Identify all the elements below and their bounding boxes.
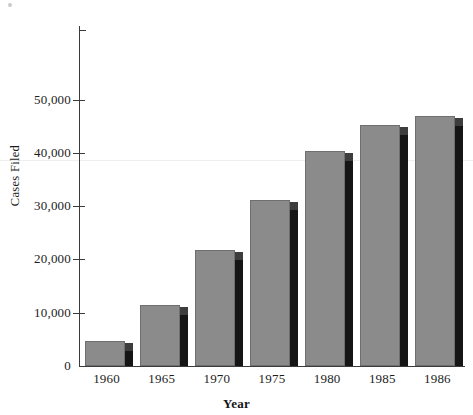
bar-shadow-bevel	[290, 202, 298, 210]
bar-shadow	[400, 133, 408, 366]
y-axis-line	[79, 26, 80, 367]
x-axis-title: Year	[0, 396, 473, 412]
bar-shadow	[345, 159, 353, 366]
bar-shadow	[180, 313, 188, 366]
bar-shadow	[290, 208, 298, 366]
bar	[305, 151, 345, 366]
x-axis-tick-label: 1986	[407, 371, 467, 387]
bar	[360, 125, 400, 366]
y-axis-tick	[73, 100, 85, 101]
bar	[85, 341, 125, 366]
y-axis-top-tick	[79, 30, 86, 31]
bar-shadow	[125, 349, 133, 366]
bar-shadow-bevel	[400, 127, 408, 135]
x-axis-tick-label: 1980	[297, 371, 357, 387]
bar-shadow-bevel	[235, 252, 243, 260]
bar-shadow-bevel	[345, 153, 353, 161]
bar-shadow-bevel	[180, 307, 188, 315]
x-axis-tick-label: 1985	[352, 371, 412, 387]
bar-shadow-bevel	[455, 118, 463, 126]
y-axis-tick-label: 50,000	[5, 93, 71, 106]
bar-shadow	[235, 258, 243, 366]
y-axis-tick	[73, 259, 85, 260]
y-axis-tick	[73, 313, 85, 314]
y-axis-tick	[73, 153, 85, 154]
y-axis-title: Cases Filed	[8, 131, 23, 221]
bar-shadow	[455, 124, 463, 366]
x-axis-tick-label: 1975	[242, 371, 302, 387]
bar	[195, 250, 235, 366]
x-axis-tick-label: 1960	[77, 371, 137, 387]
x-axis-tick-label: 1970	[187, 371, 247, 387]
y-axis-tick	[73, 206, 85, 207]
x-axis-line	[79, 366, 465, 367]
y-axis-tick-label: 0	[5, 359, 71, 372]
x-axis-tick-label: 1965	[132, 371, 192, 387]
bar	[250, 200, 290, 366]
scan-artifact-dot	[8, 3, 12, 7]
y-axis-tick-label: 20,000	[5, 252, 71, 265]
bar	[140, 305, 180, 366]
y-axis-tick-label: 10,000	[5, 306, 71, 319]
bar-chart: 010,00020,00030,00040,00050,000 19601965…	[0, 0, 473, 415]
bar-shadow-bevel	[125, 343, 133, 351]
bar	[415, 116, 455, 366]
